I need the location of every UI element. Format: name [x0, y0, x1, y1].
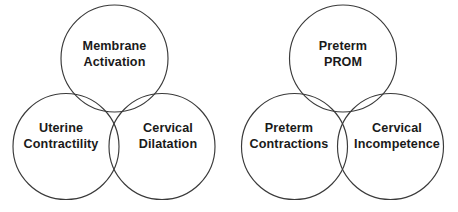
circle-bottom-left-right-diagram: [242, 94, 348, 200]
circle-top-right-diagram: [290, 5, 397, 112]
venn-circles-right: [228, 0, 458, 212]
venn-diagram-left: Membrane Activation Uterine Contractilit…: [0, 0, 229, 212]
circle-bottom-right-left-diagram: [109, 94, 215, 200]
venn-circles-left: [0, 0, 229, 212]
circle-bottom-right-right-diagram: [338, 94, 444, 200]
venn-diagram-figure: Membrane Activation Uterine Contractilit…: [0, 0, 458, 212]
circle-top-left-diagram: [61, 5, 168, 112]
circle-bottom-left-left-diagram: [13, 94, 119, 200]
venn-diagram-right: Preterm PROM Preterm Contractions Cervic…: [228, 0, 458, 212]
